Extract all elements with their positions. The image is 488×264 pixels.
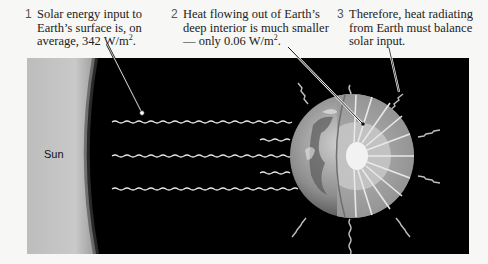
sun-label: Sun [44,148,64,160]
solar-ray-icon [260,172,290,174]
solar-ray-icon [260,139,290,141]
solar-ray-icon [112,121,292,123]
solar-rays [112,121,298,190]
diagram-scene [0,0,488,264]
solar-ray-icon [112,188,298,190]
solar-ray-icon [112,155,292,157]
inner-core [346,142,368,170]
